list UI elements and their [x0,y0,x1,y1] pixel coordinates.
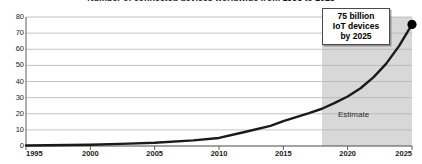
y-axis-tick-label: 20 [2,110,24,118]
y-axis-tick-label: 30 [2,94,24,102]
estimate-label: Estimate [338,111,369,119]
y-axis-labels: 01020304050607080 [0,0,24,164]
callout-line-1: 75 billion [326,11,386,21]
x-axis-tick-label: 2025 [395,150,412,158]
callout-line-2: IoT devices [326,21,386,31]
x-axis-tick-label: 2010 [211,150,228,158]
callout-box: 75 billion IoT devices by 2025 [322,8,390,45]
y-axis-tick-label: 40 [2,78,24,86]
x-axis-tick-label: 2000 [82,150,99,158]
x-axis-tick-label: 2005 [146,150,163,158]
y-axis-tick-label: 80 [2,13,24,21]
y-axis-tick-label: 10 [2,126,24,134]
x-axis-tick-label: 2015 [275,150,292,158]
y-axis-tick-label: 60 [2,46,24,54]
y-axis-tick-label: 0 [2,142,24,150]
y-axis-tick-label: 50 [2,62,24,70]
x-axis-tick-label: 2020 [339,150,356,158]
endpoint-marker [407,20,416,29]
callout-line-3: by 2025 [326,31,386,41]
chart-container: Number of connected devices worldwide fr… [0,0,422,164]
x-axis-tick-label: 1995 [26,150,43,158]
y-axis-tick-label: 70 [2,29,24,37]
